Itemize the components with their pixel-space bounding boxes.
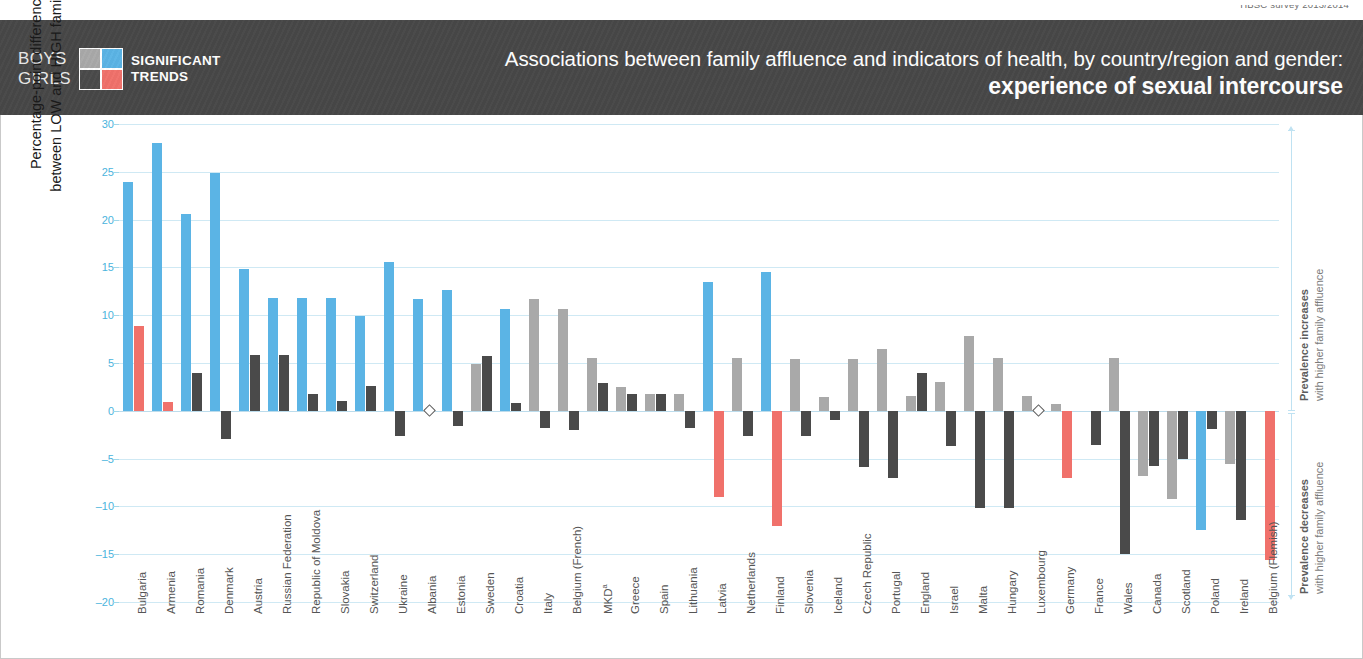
plot-area: 302520151050–5–10–15–20BulgariaArmeniaRo… xyxy=(119,124,1279,602)
legend-caption-line2: TRENDS xyxy=(131,69,221,85)
bar-boys xyxy=(500,309,510,410)
y-axis-tickmark xyxy=(113,220,119,221)
y-axis-tickmark xyxy=(113,315,119,316)
x-axis-label: France xyxy=(1093,578,1105,614)
x-axis-label: Denmark xyxy=(223,567,235,614)
bar-boys xyxy=(819,397,829,410)
y-axis-tickmark xyxy=(113,363,119,364)
bar-boys xyxy=(587,358,597,411)
bar-boys xyxy=(326,298,336,411)
x-axis-label: Finland xyxy=(774,576,786,614)
y-axis-tickmark xyxy=(113,411,119,412)
x-axis-label: Russian Federation xyxy=(281,514,293,614)
y-axis-tickmark xyxy=(113,459,119,460)
bar-girls xyxy=(1120,411,1130,554)
bar-boys xyxy=(123,182,133,410)
x-axis-label: Ireland xyxy=(1238,579,1250,614)
bar-girls xyxy=(221,411,231,439)
x-axis-label: Canada xyxy=(1151,574,1163,614)
bar-boys xyxy=(877,349,887,411)
bar-boys xyxy=(616,387,626,411)
x-axis-label: Portugal xyxy=(890,571,902,614)
bar-girls xyxy=(743,411,753,436)
source-label: HBSC survey 2013/2014 xyxy=(1240,0,1349,10)
gridline xyxy=(119,220,1279,221)
bar-boys xyxy=(703,282,713,411)
annotation-prevalence-increases: Prevalence increaseswith higher family a… xyxy=(1297,268,1327,400)
y-axis-tick-label: –15 xyxy=(74,548,114,560)
gridline xyxy=(119,267,1279,268)
gridline xyxy=(119,172,1279,173)
bar-girls xyxy=(134,326,144,411)
bar-girls xyxy=(279,355,289,410)
x-axis-label: Greece xyxy=(629,576,641,614)
bar-boys xyxy=(268,298,278,411)
bar-boys xyxy=(239,269,249,410)
bar-boys xyxy=(210,173,220,411)
x-axis-label: Slovakia xyxy=(339,571,351,614)
bar-boys xyxy=(761,272,771,411)
x-axis-label: Poland xyxy=(1209,578,1221,614)
swatch-girls-nonsignificant xyxy=(80,70,100,89)
x-axis-label: Czech Republic xyxy=(861,533,873,614)
page-title: Associations between family affluence an… xyxy=(333,46,1343,101)
x-axis-label: Slovenia xyxy=(803,570,815,614)
x-axis-label: Ukraine xyxy=(397,574,409,614)
bar-girls xyxy=(366,386,376,411)
title-subject: experience of sexual intercourse xyxy=(333,72,1343,101)
x-axis-label: Malta xyxy=(977,586,989,614)
legend-caption-line1: SIGNIFICANT xyxy=(131,53,221,69)
bar-boys xyxy=(993,358,1003,411)
bar-boys xyxy=(790,359,800,411)
y-axis-tickmark xyxy=(113,172,119,173)
y-axis-tick-label: 0 xyxy=(74,405,114,417)
bar-boys xyxy=(848,359,858,411)
bar-boys xyxy=(1051,404,1061,411)
bar-girls xyxy=(975,411,985,509)
arrow-up-icon xyxy=(1288,126,1294,131)
annotation-bracket xyxy=(1291,130,1292,411)
x-axis-label: Romania xyxy=(194,568,206,614)
swatch-girls-significant xyxy=(102,70,122,89)
bar-boys xyxy=(645,394,655,411)
y-axis-tick-label: 15 xyxy=(74,261,114,273)
bar-boys xyxy=(181,214,191,411)
bar-girls xyxy=(192,373,202,411)
bar-boys xyxy=(906,396,916,410)
bar-boys xyxy=(442,290,452,410)
x-axis-label: Spain xyxy=(658,585,670,614)
gridline xyxy=(119,411,1279,412)
bar-girls xyxy=(946,411,956,446)
x-axis-label: Bulgaria xyxy=(136,572,148,614)
bar-boys xyxy=(297,298,307,411)
bar-girls xyxy=(714,411,724,497)
y-axis-tick-label: 25 xyxy=(74,166,114,178)
bar-boys xyxy=(674,394,684,411)
y-axis-title: Percentage-point difference in prevalenc… xyxy=(27,0,66,225)
bar-boys xyxy=(413,299,423,411)
bar-girls xyxy=(1062,411,1072,478)
axis-direction-annotations: Prevalence increaseswith higher family a… xyxy=(1287,124,1363,602)
bar-boys xyxy=(935,382,945,411)
y-axis-tick-label: 10 xyxy=(74,309,114,321)
x-axis-label: Estonia xyxy=(455,576,467,614)
y-axis-tick-label: –5 xyxy=(74,453,114,465)
annotation-bracket xyxy=(1291,413,1292,596)
bar-girls xyxy=(801,411,811,436)
bar-girls xyxy=(395,411,405,436)
gridline xyxy=(119,315,1279,316)
bar-girls xyxy=(1236,411,1246,520)
bar-girls xyxy=(453,411,463,426)
legend-caption: SIGNIFICANT TRENDS xyxy=(131,53,221,85)
gridline xyxy=(119,602,1279,603)
bar-boys xyxy=(152,143,162,411)
x-axis-label: Republic of Moldova xyxy=(310,510,322,614)
source-strip: HBSC survey 2013/2014 xyxy=(0,0,1363,20)
annotation-prevalence-decreases: Prevalence decreaseswith higher family a… xyxy=(1297,462,1327,594)
gridline xyxy=(119,554,1279,555)
bar-girls xyxy=(569,411,579,430)
x-axis-label: MKDa xyxy=(600,584,614,614)
y-axis-tickmark xyxy=(113,602,119,603)
x-axis-label: Austria xyxy=(252,578,264,614)
title-primary: Associations between family affluence an… xyxy=(333,46,1343,72)
